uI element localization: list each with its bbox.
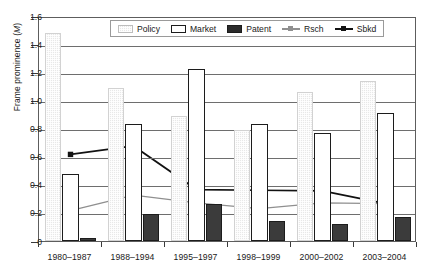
legend-square-marker bbox=[288, 26, 293, 31]
x-axis-tick-label: 1995–1997 bbox=[164, 252, 227, 262]
bar-market-4 bbox=[251, 124, 268, 241]
x-axis-tick-label: 2000–2002 bbox=[290, 252, 353, 262]
x-axis-tick-label: 2003–2004 bbox=[353, 252, 416, 262]
bar-market-2 bbox=[125, 124, 142, 241]
y-axis-tick-label: 0.8 bbox=[16, 125, 42, 133]
y-axis-title-symbol: M bbox=[12, 26, 22, 33]
x-axis-tick bbox=[38, 242, 39, 247]
bar-market-3 bbox=[188, 69, 205, 241]
bar-patent-2 bbox=[143, 214, 160, 241]
legend-label: Policy bbox=[137, 24, 160, 34]
x-axis-tick bbox=[290, 242, 291, 247]
gridline bbox=[39, 130, 415, 131]
chart-container: Frame prominence (M) PolicyMarketPatentR… bbox=[0, 0, 424, 275]
y-axis-tick-label: 1.2 bbox=[16, 69, 42, 77]
bar-market-1 bbox=[62, 174, 79, 242]
legend-item-sbkd: Sbkd bbox=[335, 24, 377, 34]
y-axis-tick-label: 0.2 bbox=[16, 209, 42, 217]
gridline bbox=[39, 46, 415, 47]
bar-market-5 bbox=[314, 133, 331, 241]
gridline bbox=[39, 102, 415, 103]
y-axis-tick-label: 0.6 bbox=[16, 153, 42, 161]
x-axis-tick bbox=[416, 242, 417, 247]
plot-area bbox=[38, 17, 416, 242]
gridline bbox=[39, 214, 415, 215]
y-axis-title-tail: ) bbox=[12, 23, 22, 26]
legend-swatch-rsch bbox=[282, 25, 300, 33]
y-axis-tick-label: 1.4 bbox=[16, 41, 42, 49]
legend-square-marker bbox=[341, 26, 346, 31]
bar-policy-2 bbox=[108, 88, 125, 241]
bar-market-6 bbox=[377, 113, 394, 241]
legend-swatch-sbkd bbox=[335, 25, 353, 33]
marker-sbkd-1 bbox=[68, 152, 73, 157]
y-axis-tick-label: 1.6 bbox=[16, 13, 42, 21]
legend-label: Patent bbox=[246, 24, 271, 34]
legend-item-patent: Patent bbox=[227, 24, 271, 34]
gridline bbox=[39, 74, 415, 75]
chart-legend: PolicyMarketPatentRschSbkd bbox=[110, 20, 384, 37]
y-axis-tick-label: 0.4 bbox=[16, 181, 42, 189]
legend-item-policy: Policy bbox=[118, 24, 160, 34]
x-axis-tick bbox=[164, 242, 165, 247]
legend-label: Sbkd bbox=[357, 24, 377, 34]
bar-patent-4 bbox=[269, 221, 286, 241]
x-axis-tick-label: 1988–1994 bbox=[101, 252, 164, 262]
bar-patent-6 bbox=[395, 217, 412, 241]
bar-policy-1 bbox=[45, 33, 62, 241]
legend-swatch-market bbox=[171, 25, 186, 33]
gridline bbox=[39, 158, 415, 159]
legend-label: Market bbox=[190, 24, 216, 34]
x-axis-tick-label: 1998–1999 bbox=[227, 252, 290, 262]
bar-policy-4 bbox=[234, 130, 251, 241]
bar-policy-5 bbox=[297, 92, 314, 241]
legend-swatch-policy bbox=[118, 25, 133, 33]
x-axis-tick-label: 1980–1987 bbox=[38, 252, 101, 262]
bar-patent-1 bbox=[80, 238, 97, 241]
legend-label: Rsch bbox=[304, 24, 324, 34]
x-axis-tick bbox=[101, 242, 102, 247]
bar-patent-5 bbox=[332, 224, 349, 241]
bar-patent-3 bbox=[206, 204, 223, 241]
bar-policy-6 bbox=[360, 81, 377, 241]
y-axis-tick-label: 1.0 bbox=[16, 97, 42, 105]
x-axis-tick bbox=[227, 242, 228, 247]
legend-swatch-patent bbox=[227, 25, 242, 33]
legend-item-rsch: Rsch bbox=[282, 24, 324, 34]
legend-item-market: Market bbox=[171, 24, 216, 34]
gridline bbox=[39, 186, 415, 187]
x-axis-tick bbox=[353, 242, 354, 247]
bar-policy-3 bbox=[171, 116, 188, 241]
